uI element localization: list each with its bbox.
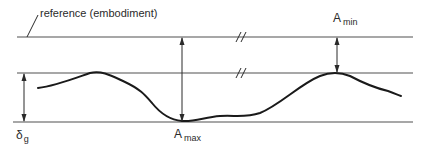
a-max-label-subscript: max xyxy=(184,133,201,143)
profile-curve xyxy=(38,72,401,121)
reference-leader-line xyxy=(27,15,38,37)
delta-g-label-main: δ xyxy=(16,128,23,142)
a-min-label-main: A xyxy=(333,11,341,25)
a-max-label-main: A xyxy=(174,127,182,141)
a-min-label-subscript: min xyxy=(343,17,358,27)
reference-label: reference (embodiment) xyxy=(40,8,157,19)
a-max-label: Amax xyxy=(174,128,201,140)
delta-g-label: δg xyxy=(16,129,29,141)
surface-profile-diagram xyxy=(0,0,429,152)
delta-g-label-subscript: g xyxy=(24,134,29,144)
a-min-label: Amin xyxy=(333,12,358,24)
